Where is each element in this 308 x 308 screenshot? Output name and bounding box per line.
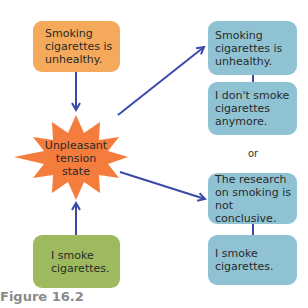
resolution-text: I smoke cigarettes.	[215, 247, 274, 273]
resolution-1-belief-box: Smoking cigarettes is unhealthy.	[208, 21, 297, 75]
belief-text: Smoking cigarettes is unhealthy.	[45, 27, 112, 66]
resolution-text: Smoking cigarettes is unhealthy.	[215, 29, 282, 68]
figure-caption: Figure 16.2	[0, 289, 84, 304]
tension-state-label: Unpleasant tension state	[36, 139, 116, 178]
or-separator: or	[248, 148, 258, 159]
behavior-box-smoke: I smoke cigarettes.	[33, 235, 120, 288]
behavior-text: I smoke cigarettes.	[51, 249, 110, 275]
belief-box-unhealthy: Smoking cigarettes is unhealthy.	[33, 21, 120, 72]
resolution-1-behavior-box: I don't smoke cigarettes anymore.	[208, 82, 297, 135]
resolution-2-belief-box: The research on smoking is not conclusiv…	[208, 173, 297, 224]
resolution-2-behavior-box: I smoke cigarettes.	[208, 235, 297, 285]
resolution-text: I don't smoke cigarettes anymore.	[215, 89, 289, 128]
resolution-text: The research on smoking is not conclusiv…	[215, 173, 297, 225]
